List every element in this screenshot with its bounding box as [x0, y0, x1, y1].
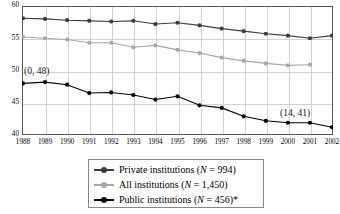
x-axis-tick-label: 1997	[214, 138, 228, 146]
legend-item-label: Private institutions (N = 994)	[119, 164, 236, 175]
chart-legend: Private institutions (N = 994)All instit…	[88, 159, 264, 208]
data-point-marker	[109, 19, 113, 23]
x-axis-tick-label: 1998	[237, 138, 251, 146]
data-point-marker	[65, 37, 69, 41]
legend-item: All institutions (N = 1,450)	[94, 177, 258, 192]
x-axis-tick-label: 1989	[38, 138, 52, 146]
data-point-marker	[87, 91, 91, 95]
data-point-marker	[286, 34, 290, 38]
x-axis-tick-label: 1992	[104, 138, 118, 146]
data-point-marker	[175, 48, 179, 52]
data-point-marker	[308, 63, 312, 67]
data-point-marker	[87, 19, 91, 23]
data-point-marker	[330, 125, 333, 129]
data-point-marker	[308, 121, 312, 125]
data-point-marker	[220, 106, 224, 110]
series-line	[23, 82, 332, 127]
y-axis: 6055504540	[0, 0, 22, 141]
legend-marker-icon	[94, 180, 114, 190]
data-point-marker	[153, 22, 157, 26]
legend-item: Private institutions (N = 994)	[94, 162, 258, 177]
data-point-marker	[22, 16, 25, 20]
data-point-marker	[153, 97, 157, 101]
annotation-start-point: (0, 48)	[24, 66, 49, 76]
data-point-marker	[330, 34, 333, 38]
data-point-marker	[109, 41, 113, 45]
data-point-marker	[65, 83, 69, 87]
data-point-marker	[197, 23, 201, 27]
data-point-marker	[220, 26, 224, 30]
x-axis-tick-label: 1993	[126, 138, 140, 146]
data-point-marker	[286, 63, 290, 67]
x-axis-tick-label: 2001	[303, 138, 317, 146]
annotation-end-point: (14, 41)	[280, 108, 310, 118]
data-point-marker	[175, 94, 179, 98]
data-point-marker	[131, 93, 135, 97]
data-point-marker	[153, 43, 157, 47]
data-point-marker	[264, 119, 268, 123]
y-axis-tick-label: 45	[12, 99, 19, 106]
data-point-marker	[286, 121, 290, 125]
legend-item: Public institutions (N = 456)*	[94, 192, 258, 207]
data-point-marker	[264, 32, 268, 36]
chart-figure: 6055504540 (0, 48) (14, 41) 198819891990…	[0, 0, 340, 214]
data-point-marker	[197, 51, 201, 55]
data-point-marker	[197, 103, 201, 107]
legend-item-label: All institutions (N = 1,450)	[119, 179, 228, 190]
series-private-institutions	[22, 16, 333, 40]
data-point-marker	[308, 36, 312, 40]
y-axis-tick-label: 60	[12, 2, 19, 9]
x-axis-tick-label: 1994	[148, 138, 162, 146]
x-axis: 1988198919901991199219931994199519961997…	[22, 138, 333, 150]
x-axis-tick-label: 2000	[281, 138, 295, 146]
x-axis-tick-label: 1991	[82, 138, 96, 146]
data-point-marker	[22, 35, 25, 39]
x-axis-tick-label: 1988	[16, 138, 30, 146]
data-point-marker	[131, 45, 135, 49]
data-point-marker	[109, 90, 113, 94]
x-axis-tick-label: 1999	[259, 138, 273, 146]
data-point-marker	[131, 19, 135, 23]
data-point-marker	[242, 114, 246, 118]
data-point-marker	[22, 81, 25, 85]
legend-item-label: Public institutions (N = 456)*	[119, 194, 238, 205]
data-point-marker	[264, 61, 268, 65]
data-point-marker	[65, 18, 69, 22]
legend-marker-icon	[94, 195, 114, 205]
x-axis-tick-label: 2002	[325, 138, 339, 146]
legend-marker-icon	[94, 165, 114, 175]
x-axis-tick-label: 1990	[60, 138, 74, 146]
series-all-institutions	[22, 35, 312, 68]
data-point-marker	[242, 29, 246, 33]
series-public-institutions	[22, 80, 333, 129]
y-axis-tick-label: 50	[12, 67, 19, 74]
data-point-marker	[242, 59, 246, 63]
y-axis-tick-label: 55	[12, 35, 19, 42]
data-point-marker	[220, 56, 224, 60]
data-point-marker	[43, 80, 47, 84]
data-point-marker	[43, 36, 47, 40]
x-axis-tick-label: 1996	[192, 138, 206, 146]
data-point-marker	[43, 17, 47, 21]
data-point-marker	[175, 21, 179, 25]
data-point-marker	[87, 41, 91, 45]
x-axis-tick-label: 1995	[170, 138, 184, 146]
